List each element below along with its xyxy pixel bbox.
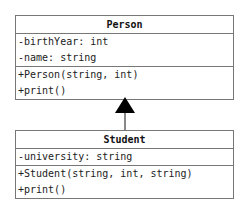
attributes-section: -birthYear: int -name: string <box>16 34 233 67</box>
attribute: -name: string <box>18 50 231 66</box>
methods-section: +Student(string, int, string) +print() <box>16 166 233 198</box>
attribute: -university: string <box>18 149 231 165</box>
inheritance-line <box>124 110 126 130</box>
class-name: Student <box>16 131 233 149</box>
attribute: -birthYear: int <box>18 34 231 50</box>
methods-section: +Person(string, int) +print() <box>16 67 233 99</box>
method: +print() <box>18 182 231 198</box>
attributes-section: -university: string <box>16 149 233 166</box>
class-name: Person <box>16 16 233 34</box>
class-person: Person -birthYear: int -name: string +Pe… <box>15 15 234 100</box>
method: +Student(string, int, string) <box>18 166 231 182</box>
inheritance-arrow-icon <box>115 97 135 113</box>
class-student: Student -university: string +Student(str… <box>15 130 234 199</box>
method: +Person(string, int) <box>18 67 231 83</box>
